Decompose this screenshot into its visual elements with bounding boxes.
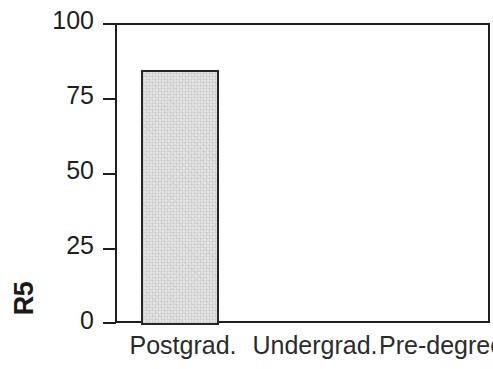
y-tick-label-100: 100	[14, 8, 94, 33]
x-tick-label-undergrad: Undergrad.	[251, 332, 379, 360]
bar-postgrad	[141, 70, 219, 325]
y-tick-label-50: 50	[14, 158, 94, 183]
y-tick-label-75: 75	[14, 83, 94, 108]
plot-area	[115, 23, 490, 323]
x-tick-label-postgrad: Postgrad.	[115, 332, 251, 360]
x-axis-tick-labels: Postgrad. Undergrad. Pre-degree	[115, 332, 493, 369]
x-tick-label-predegree: Pre-degree	[379, 332, 493, 360]
bar-chart-figure: R5 100 75 50 25 0 Postgrad. Undergrad. P…	[0, 0, 493, 369]
y-tick-label-25: 25	[14, 233, 94, 258]
y-tick-label-0: 0	[14, 308, 94, 333]
